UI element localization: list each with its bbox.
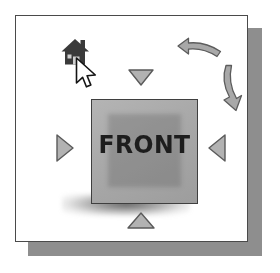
curved-arrow-left-icon[interactable] — [176, 35, 223, 60]
cube-face-label: FRONT — [95, 132, 194, 157]
viewcube-figure: FRONT — [0, 0, 280, 273]
triangle-up-icon[interactable] — [127, 212, 155, 229]
curved-arrow-down-icon[interactable] — [222, 64, 246, 112]
mouse-cursor-icon — [75, 57, 99, 91]
viewcube-panel: FRONT — [15, 15, 248, 242]
viewcube-front-face[interactable]: FRONT — [91, 99, 198, 204]
triangle-left-icon[interactable] — [208, 134, 226, 162]
triangle-right-icon[interactable] — [56, 134, 74, 162]
triangle-down-icon[interactable] — [128, 69, 154, 86]
